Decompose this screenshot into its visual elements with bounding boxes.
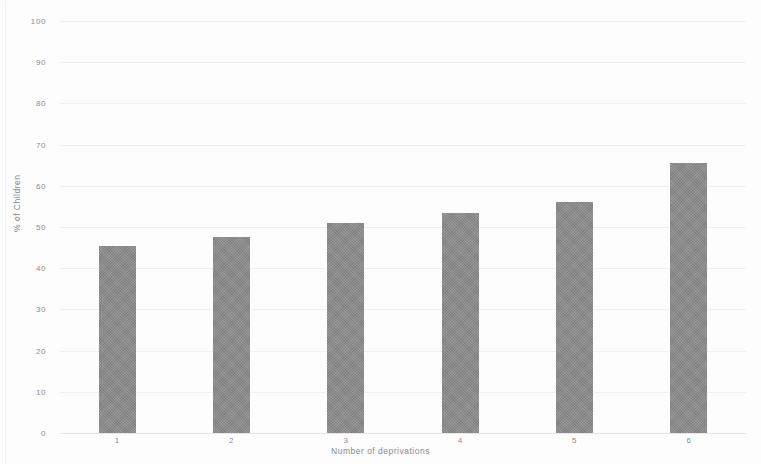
bar-5 [556, 202, 593, 433]
gridline-40 [60, 268, 746, 269]
y-tick-label-100: 100 [31, 17, 46, 26]
bar-4 [442, 213, 479, 433]
gridline-70 [60, 145, 746, 146]
bar-2 [213, 237, 250, 433]
scan-top-artifact [0, 0, 761, 1]
gridline-50 [60, 227, 746, 228]
x-tick-label-2: 2 [229, 436, 234, 445]
y-tick-label-50: 50 [36, 223, 46, 232]
y-tick-label-80: 80 [36, 99, 46, 108]
gridline-100 [60, 21, 746, 22]
x-axis-title: Number of deprivations [0, 446, 761, 456]
bar-3 [327, 223, 364, 433]
gridline-80 [60, 103, 746, 104]
y-tick-label-10: 10 [36, 387, 46, 396]
y-tick-label-60: 60 [36, 181, 46, 190]
x-tick-label-4: 4 [458, 436, 463, 445]
gridline-0 [60, 433, 746, 434]
y-tick-label-0: 0 [41, 429, 46, 438]
y-tick-label-90: 90 [36, 58, 46, 67]
y-axis-title: % of Children [12, 174, 22, 232]
x-tick-label-1: 1 [115, 436, 120, 445]
gridline-20 [60, 351, 746, 352]
bar-6 [670, 163, 707, 433]
bar-chart-figure: 0102030405060708090100 % of Children 123… [0, 0, 761, 464]
y-axis-tick-labels: 0102030405060708090100 [0, 21, 56, 433]
y-tick-label-70: 70 [36, 140, 46, 149]
gridline-10 [60, 392, 746, 393]
x-tick-label-5: 5 [572, 436, 577, 445]
y-tick-label-20: 20 [36, 346, 46, 355]
bar-1 [99, 246, 136, 433]
gridline-60 [60, 186, 746, 187]
y-tick-label-30: 30 [36, 305, 46, 314]
gridline-30 [60, 309, 746, 310]
x-tick-label-6: 6 [686, 436, 691, 445]
y-tick-label-40: 40 [36, 264, 46, 273]
plot-area [60, 21, 746, 433]
x-tick-label-3: 3 [343, 436, 348, 445]
gridline-90 [60, 62, 746, 63]
